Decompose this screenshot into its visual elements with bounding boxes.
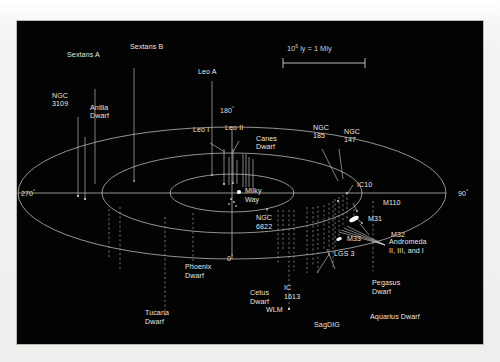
angle-0-label: 0° [227,253,233,263]
galaxy-markers [77,174,363,310]
angle-270-label: 270° [21,188,35,198]
angle-180-label: 180° [220,105,234,115]
marker-m31 [348,215,359,224]
leader-lines [210,141,385,273]
marker-milky-way [237,190,241,194]
angle-90-label: 90° [458,188,468,198]
scale-bar-label: 106 ly = 1 Mly [287,43,332,53]
local-group-figure: 106 ly = 1 Mly 270° 180° 90° 0° Sextans … [0,0,500,362]
marker-m33 [336,236,343,241]
droplines-above [78,68,253,199]
scale-bar-rule [283,58,365,68]
star-map-panel: 106 ly = 1 Mly 270° 180° 90° 0° Sextans … [17,21,483,344]
map-vector-layer [17,21,483,344]
